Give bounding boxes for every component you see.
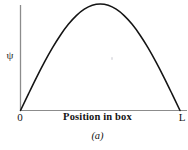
x-tick-label-length: L — [176, 112, 188, 123]
y-axis-label: ψ — [3, 50, 17, 61]
scan-artifact-speck — [111, 57, 113, 60]
wavefunction-curve — [21, 4, 181, 111]
plot-canvas — [0, 0, 188, 150]
wavefunction-figure: ψ 0 L Position in box (a) — [0, 0, 188, 150]
x-axis-title: Position in box — [20, 112, 175, 123]
panel-caption: (a) — [20, 131, 175, 142]
